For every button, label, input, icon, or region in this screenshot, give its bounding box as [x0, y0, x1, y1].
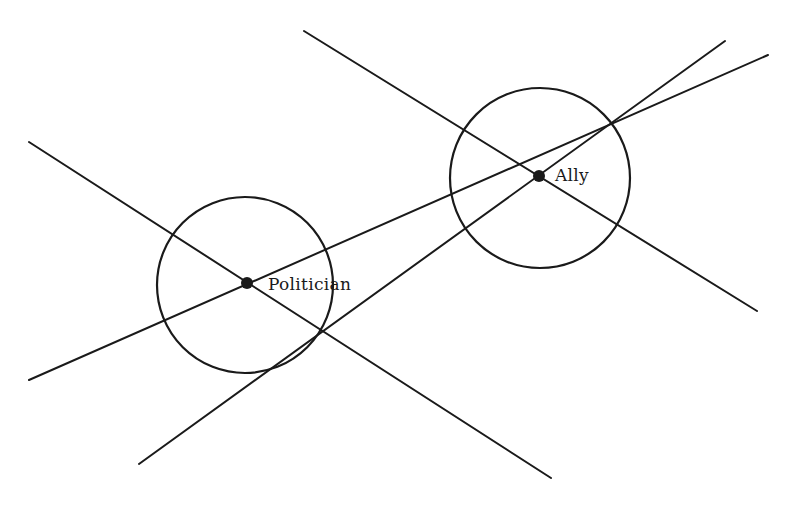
- ally-line-1: [304, 31, 757, 311]
- ally-point: [533, 170, 545, 182]
- ally-label: Ally: [555, 165, 589, 185]
- politician-line-2: [29, 55, 768, 380]
- politician-line-1: [29, 142, 551, 478]
- politician-label: Politician: [268, 274, 351, 294]
- politician-point: [241, 277, 253, 289]
- diagram-canvas: [0, 0, 788, 507]
